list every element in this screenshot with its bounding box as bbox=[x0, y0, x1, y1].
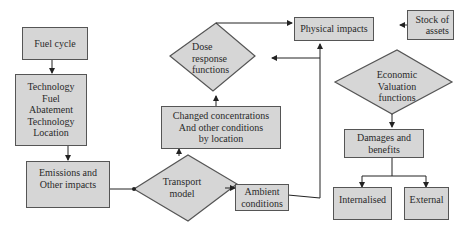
node-internalised: Internalised bbox=[333, 187, 392, 220]
node-transport-model-label: Transport model bbox=[152, 176, 212, 199]
node-dose-response-label: Dose response functions bbox=[184, 41, 244, 76]
node-economic-valuation-label: Economic Valuation functions bbox=[367, 69, 427, 104]
node-external: External bbox=[404, 187, 449, 220]
node-emissions: Emissions and Other impacts bbox=[26, 161, 110, 208]
node-stock-of-assets: Stock of assets bbox=[407, 10, 454, 40]
node-technology: Technology Fuel Abatement Technology Loc… bbox=[15, 74, 87, 146]
node-changed-concentrations: Changed concentrations And other conditi… bbox=[161, 106, 281, 149]
node-damages-benefits: Damages and benefits bbox=[344, 129, 424, 158]
node-physical-impacts: Physical impacts bbox=[294, 17, 374, 41]
node-fuel-cycle: Fuel cycle bbox=[22, 27, 88, 60]
node-ambient-conditions: Ambient conditions bbox=[235, 184, 289, 211]
